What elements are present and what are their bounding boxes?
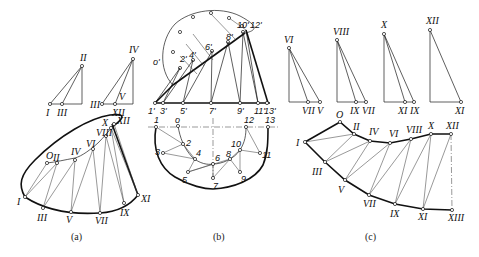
label-XI-tri2: XI: [454, 105, 465, 116]
label-IX-dev: IX: [119, 207, 130, 218]
label-VI-c: VI: [389, 128, 399, 139]
label-9-prime: 9': [237, 106, 244, 116]
label-IV: IV: [128, 44, 140, 55]
label-IX-c: IX: [389, 208, 400, 219]
label-IX-tri: IX: [349, 105, 360, 116]
label-III-dev: III: [36, 212, 48, 223]
label-VII-c: VII: [363, 198, 376, 209]
top-view: 1 o 2 3 4 5 6 7 8 9 10 11 12 13: [148, 115, 278, 191]
true-length-triangle-X: X XI IX: [380, 19, 420, 116]
label-III: III: [56, 107, 68, 118]
true-length-triangle-XII: XII XI: [425, 15, 465, 116]
caption-a: (a): [71, 231, 82, 243]
label-VII-tri2: VII: [362, 105, 375, 116]
label-IX-tri2: IX: [409, 105, 420, 116]
label-6-prime: 6': [205, 42, 212, 52]
development-a: O II IV VI VIII X XII I III V VII IX XI: [16, 115, 151, 226]
label-8-prime: 8': [226, 32, 233, 42]
true-length-triangle-2: IV III V XII: [89, 44, 140, 118]
label-VII-tri: VII: [302, 105, 315, 116]
true-length-triangle-VIII: VIII IX VII: [333, 26, 375, 116]
label-XI-c: XI: [417, 211, 428, 222]
label-II-c: II: [352, 121, 360, 132]
label-XII-tri: XII: [425, 15, 439, 26]
true-length-triangle-VI: VI VII V: [284, 34, 325, 116]
label-4-prime: 4': [189, 50, 196, 60]
panel-c: VI VII V VIII IX VII X XI IX: [284, 15, 465, 243]
label-III-c: III: [311, 166, 323, 177]
true-length-triangle-1: II I III: [45, 52, 87, 118]
label-4: 4: [196, 148, 201, 158]
label-IV-c: IV: [368, 126, 380, 137]
label-XII-c: XII: [445, 120, 459, 131]
label-10-prime: 10': [237, 20, 249, 30]
label-VIII-tri: VIII: [333, 26, 350, 37]
label-7: 7: [213, 181, 219, 191]
label-13: 13: [265, 115, 275, 125]
development-c: I O II IV VI VIII X XII III V VII IX XI …: [295, 109, 465, 223]
label-o-prime: o': [153, 57, 160, 67]
label-12-prime: 12': [250, 20, 262, 30]
label-2-prime: 2': [179, 54, 187, 64]
technical-diagram: II I III IV III V XII: [0, 0, 479, 257]
label-VIII-c: VIII: [406, 124, 423, 135]
label-6: 6: [215, 153, 220, 163]
label-9: 9: [241, 174, 246, 184]
label-V-c: V: [338, 184, 346, 195]
label-7-prime: 7': [209, 106, 216, 116]
label-VIII: VIII: [96, 127, 113, 138]
label-3: 3: [155, 147, 160, 157]
label-I-dev: I: [16, 196, 21, 207]
label-II-dev: II: [52, 152, 60, 163]
caption-b: (b): [213, 231, 225, 243]
label-X: X: [101, 117, 109, 128]
label-3-prime: 3': [160, 106, 167, 116]
label-VI: VI: [86, 138, 96, 149]
label-11: 11: [262, 150, 271, 160]
label-8: 8: [226, 149, 231, 159]
panel-a: II I III IV III V XII: [16, 44, 151, 243]
label-VII-dev: VII: [95, 215, 108, 226]
label-V: V: [119, 91, 127, 102]
diagram-canvas: II I III IV III V XII: [0, 0, 479, 257]
label-V-tri: V: [317, 105, 325, 116]
label-V-dev: V: [66, 214, 74, 225]
label-X-tri: X: [380, 19, 388, 30]
label-VI-tri: VI: [284, 34, 294, 45]
label-O-c: O: [336, 109, 343, 120]
label-XI-tri: XI: [397, 105, 408, 116]
front-view: o' 2' 4' 6' 8' 10' 12' 1' 3' 5' 7' 9' 11…: [148, 10, 276, 116]
label-o: o: [175, 115, 180, 125]
label-XII-dev: XII: [116, 115, 130, 126]
caption-c: (c): [365, 231, 376, 243]
label-XI-dev: XI: [140, 193, 151, 204]
label-I: I: [45, 107, 50, 118]
panel-b: o' 2' 4' 6' 8' 10' 12' 1' 3' 5' 7' 9' 11…: [148, 10, 278, 243]
label-12: 12: [244, 115, 254, 125]
label-5-prime: 5': [180, 106, 187, 116]
label-1: 1: [154, 115, 159, 125]
label-X-c: X: [427, 120, 435, 131]
label-10: 10: [231, 139, 241, 149]
label-2: 2: [185, 138, 191, 148]
label-II: II: [79, 52, 87, 63]
label-III-b: III: [89, 99, 101, 110]
label-XIII-c: XIII: [447, 212, 465, 223]
label-I-c: I: [295, 137, 300, 148]
